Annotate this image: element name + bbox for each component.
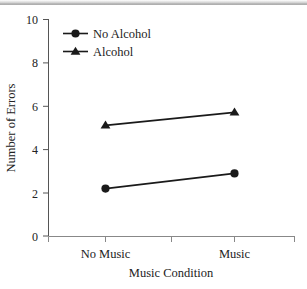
legend-label-no-alcohol: No Alcohol bbox=[93, 27, 152, 41]
x-category-label-music: Music bbox=[219, 247, 251, 261]
chart-figure: 10 8 6 4 2 0 Number of Errors No Music M… bbox=[0, 0, 307, 289]
y-tick-label-8: 8 bbox=[32, 56, 38, 70]
y-axis-title: Number of Errors bbox=[4, 83, 18, 172]
chart-legend: No Alcohol Alcohol bbox=[63, 27, 152, 59]
data-point-alcohol-music bbox=[230, 108, 240, 116]
series-no-alcohol bbox=[101, 169, 238, 192]
circle-marker-icon bbox=[71, 29, 79, 37]
x-category-label-no-music: No Music bbox=[81, 247, 131, 261]
series-alcohol bbox=[101, 108, 240, 129]
legend-entry-no-alcohol: No Alcohol bbox=[63, 27, 152, 41]
data-point-no-alcohol-music bbox=[230, 169, 238, 177]
x-axis-title: Music Condition bbox=[129, 266, 214, 280]
y-tick-label-10: 10 bbox=[26, 13, 38, 27]
legend-entry-alcohol: Alcohol bbox=[63, 45, 134, 59]
data-point-no-alcohol-no-music bbox=[101, 185, 109, 193]
y-tick-label-2: 2 bbox=[32, 187, 38, 201]
legend-label-alcohol: Alcohol bbox=[93, 45, 134, 59]
y-tick-label-4: 4 bbox=[32, 143, 38, 157]
x-axis bbox=[49, 237, 296, 243]
y-axis bbox=[43, 19, 49, 236]
y-tick-label-0: 0 bbox=[32, 230, 38, 244]
line-chart-plot: 10 8 6 4 2 0 Number of Errors No Music M… bbox=[0, 0, 307, 289]
y-tick-label-6: 6 bbox=[32, 100, 38, 114]
